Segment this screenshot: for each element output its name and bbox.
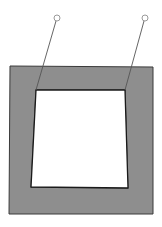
diagram-canvas: [0, 0, 162, 227]
callout-marker-circle-icon-1: [54, 15, 60, 21]
callout-marker-circle-icon-2: [142, 15, 148, 21]
inner-opening: [31, 90, 128, 188]
